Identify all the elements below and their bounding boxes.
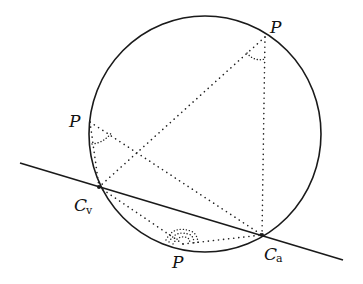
angle-arc-left	[92, 132, 112, 144]
label-p-bottom: P	[171, 252, 184, 272]
chord-pleft-ca	[90, 122, 262, 235]
secant-line	[20, 163, 343, 260]
angle-arc-top	[247, 53, 265, 60]
angle-arc-bottom-2	[169, 233, 194, 244]
label-ca-sub: a	[276, 252, 283, 265]
circle	[89, 16, 321, 252]
label-p-left: P	[68, 111, 81, 131]
point-ca	[260, 233, 264, 237]
label-cv-sub: v	[85, 204, 93, 217]
chord-ptop-cv	[99, 37, 265, 187]
chord-ptop-ca	[262, 37, 265, 235]
chord-pbottom-cv	[99, 187, 183, 244]
label-p-top: P	[269, 17, 282, 37]
circle-diagram: P P P C v C a	[0, 0, 363, 284]
point-cv	[97, 185, 101, 189]
